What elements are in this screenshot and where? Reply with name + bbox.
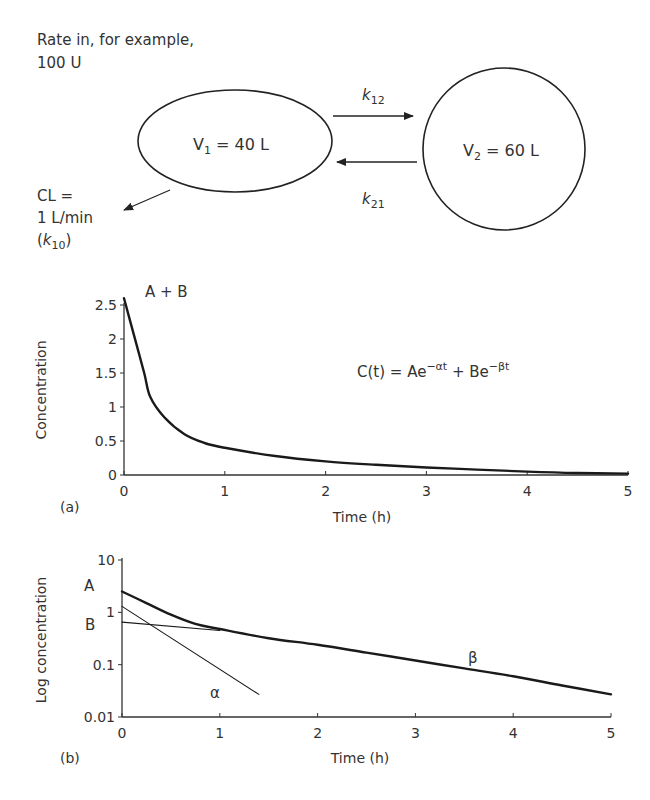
intercept-A-label: A: [84, 577, 95, 595]
series-line-0: [124, 298, 628, 473]
curve-label-a-plus-b: A + B: [145, 283, 188, 301]
y-axis-label-a: Concentration: [33, 340, 49, 439]
y-axis-label-b: Log concentration: [33, 577, 49, 703]
y-tick-label: 1.5: [95, 365, 117, 381]
elimination-arrow-icon: [124, 190, 170, 210]
series-line-0: [122, 592, 611, 695]
compartment-diagram: Rate in, for example, 100 U V1 = 40 L V2…: [37, 31, 585, 252]
x-axis-label-a: Time (h): [332, 509, 392, 525]
central-volume-label: V1 = 40 L: [193, 135, 269, 157]
x-tick-label: 2: [313, 725, 322, 741]
peripheral-volume-label: V2 = 60 L: [463, 141, 539, 163]
x-tick-label: 1: [215, 725, 224, 741]
clearance-value: 1 L/min: [37, 209, 93, 227]
y-tick-label: 1: [108, 399, 117, 415]
x-axis-label-b: Time (h): [330, 750, 390, 766]
linear-concentration-chart: A + B C(t) = Ae−αt + Be−βt (a) Concentra…: [33, 283, 632, 525]
x-tick-label: 0: [120, 483, 129, 499]
y-tick-label: 0.01: [84, 709, 115, 725]
x-tick-label: 3: [422, 483, 431, 499]
y-tick-label: 2.5: [95, 297, 117, 313]
log-concentration-chart: A B α β (b) Log concentration Time (h) 0…: [33, 552, 615, 766]
y-tick-label: 2: [108, 331, 117, 347]
x-tick-label: 4: [523, 483, 532, 499]
rate-in-label: Rate in, for example,: [37, 31, 194, 49]
biexponential-equation: C(t) = Ae−αt + Be−βt: [357, 360, 510, 381]
x-tick-label: 1: [220, 483, 229, 499]
alpha-phase-label: α: [210, 684, 220, 702]
pk-figure: Rate in, for example, 100 U V1 = 40 L V2…: [0, 0, 650, 800]
x-tick-label: 0: [118, 725, 127, 741]
x-tick-label: 5: [624, 483, 633, 499]
x-tick-label: 3: [411, 725, 420, 741]
clearance-rate-constant: (k10): [37, 231, 71, 252]
rate-in-dose: 100 U: [37, 54, 81, 72]
k21-label: k21: [362, 190, 385, 211]
beta-phase-label: β: [468, 649, 478, 667]
series-line-1: [122, 606, 259, 694]
y-tick-label: 0.5: [95, 433, 117, 449]
x-tick-label: 4: [509, 725, 518, 741]
y-tick-label: 0.1: [93, 657, 115, 673]
panel-b-label: (b): [60, 750, 80, 766]
y-tick-label: 0: [108, 467, 117, 483]
clearance-label: CL =: [37, 187, 73, 205]
panel-a-label: (a): [60, 499, 80, 515]
x-tick-label: 5: [607, 725, 616, 741]
k12-label: k12: [362, 86, 385, 107]
intercept-B-label: B: [85, 616, 95, 634]
y-tick-label: 1: [106, 604, 115, 620]
y-tick-label: 10: [97, 552, 115, 568]
x-tick-label: 2: [321, 483, 330, 499]
